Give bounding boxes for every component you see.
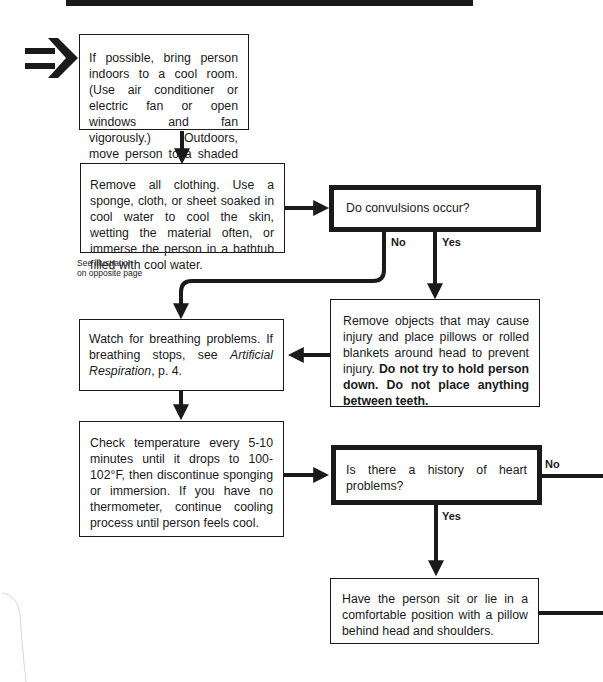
decision-text: Do convulsions occur? [346, 200, 526, 216]
step-text: Remove objects that may cause injury and… [343, 313, 529, 409]
decision-text: Is there a history of heart problems? [346, 462, 527, 494]
note-line-2: on opposite page [77, 268, 142, 278]
double-arrow-icon [25, 38, 78, 78]
step-remove-clothing: Remove all clothing. Use a sponge, cloth… [80, 163, 285, 253]
step-text: If possible, bring person indoors to a c… [89, 50, 238, 178]
illustration-note: See illustration on opposite page [77, 258, 142, 278]
step-check-temperature: Check temperature every 5-10 minutes unt… [79, 421, 284, 537]
step-convulsion-care: Remove objects that may cause injury and… [330, 299, 540, 407]
page-reference: , p. 4. [151, 364, 182, 378]
decision-heart-history: Is there a history of heart problems? [331, 445, 542, 505]
decision-heart-no-label: No [545, 458, 560, 470]
step-text: Have the person sit or lie in a comforta… [342, 591, 528, 639]
step-move-to-cool-room: If possible, bring person indoors to a c… [79, 34, 249, 130]
note-line-1: See illustration [77, 258, 142, 268]
step-text: Watch for breathing problems. If breathi… [89, 331, 273, 379]
step-watch-breathing: Watch for breathing problems. If breathi… [79, 319, 284, 391]
decision-heart-yes-label: Yes [442, 510, 461, 522]
decision-convulsions: Do convulsions occur? [329, 185, 541, 232]
page-edge-mark [0, 585, 30, 682]
decision-convulsions-yes-label: Yes [442, 236, 461, 248]
step-text: Check temperature every 5-10 minutes unt… [90, 435, 273, 531]
decision-convulsions-no-label: No [391, 236, 406, 248]
step-comfortable-position: Have the person sit or lie in a comforta… [330, 578, 539, 644]
